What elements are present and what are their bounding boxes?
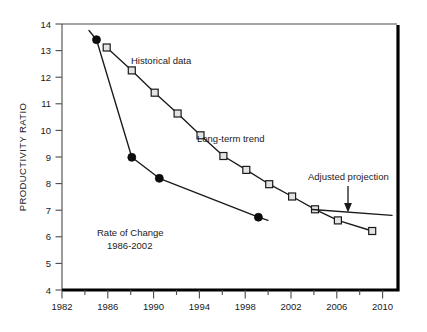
y-tick-label: 8 <box>46 178 51 189</box>
data-point-marker <box>369 228 376 235</box>
annotation-long-term-trend: Long-term trend <box>197 133 265 144</box>
y-axis-ticks <box>56 24 63 290</box>
data-point-marker <box>155 174 163 182</box>
chart-figure: 14 13 12 11 10 9 8 7 6 5 4 <box>0 0 427 332</box>
annotation-rate-of-change-period: 1986-2002 <box>107 240 152 251</box>
x-tick-label: 2006 <box>326 301 347 312</box>
data-point-marker <box>220 153 227 160</box>
y-tick-label: 7 <box>46 205 51 216</box>
y-tick-label: 4 <box>46 285 51 296</box>
data-point-marker <box>243 166 250 173</box>
annotation-adjusted-projection: Adjusted projection <box>308 171 389 182</box>
data-point-marker <box>151 89 158 96</box>
y-axis-tick-labels: 14 13 12 11 10 9 8 7 6 5 4 <box>40 19 51 296</box>
annotation-historical-data: Historical data <box>131 55 192 66</box>
x-tick-label: 1982 <box>51 301 72 312</box>
data-point-marker <box>93 36 101 44</box>
y-tick-label: 10 <box>40 125 51 136</box>
x-tick-label: 1986 <box>97 301 118 312</box>
x-tick-label: 2002 <box>280 301 301 312</box>
x-tick-label: 1994 <box>189 301 210 312</box>
x-tick-label: 1990 <box>143 301 164 312</box>
data-point-marker <box>266 181 273 188</box>
data-point-marker <box>103 44 110 51</box>
data-point-marker <box>289 193 296 200</box>
y-tick-label: 5 <box>46 258 51 269</box>
data-point-marker <box>334 217 341 224</box>
data-point-marker <box>254 213 262 221</box>
y-tick-label: 9 <box>46 152 51 163</box>
data-point-marker <box>128 153 136 161</box>
data-point-marker <box>128 67 135 74</box>
x-tick-label: 2010 <box>372 301 393 312</box>
productivity-ratio-line-chart: 14 13 12 11 10 9 8 7 6 5 4 <box>0 0 427 332</box>
y-tick-label: 11 <box>41 98 51 109</box>
y-tick-label: 12 <box>40 72 51 83</box>
y-tick-label: 14 <box>40 19 51 30</box>
data-point-marker <box>174 110 181 117</box>
x-tick-label: 1998 <box>235 301 256 312</box>
annotation-rate-of-change: Rate of Change <box>97 227 164 238</box>
y-axis-title: PRODUCTIVITY RATIO <box>17 103 28 212</box>
y-tick-label: 6 <box>46 231 51 242</box>
y-tick-label: 13 <box>40 45 51 56</box>
x-axis-tick-labels: 1982 1986 1990 1994 1998 2002 2006 2010 <box>51 301 393 312</box>
